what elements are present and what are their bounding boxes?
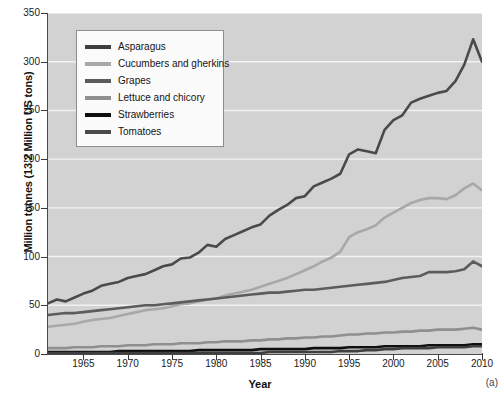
- x-tick-mark: [261, 354, 262, 360]
- chart-figure: Million tonnes (13.2 Million US tons) 05…: [0, 0, 504, 407]
- y-tick-mark: [41, 305, 48, 306]
- y-tick-mark: [41, 110, 48, 111]
- y-tick-mark: [41, 62, 48, 63]
- y-tick-label: 50: [6, 299, 40, 310]
- legend-item[interactable]: Tomatoes: [85, 123, 215, 140]
- panel-label: (a): [486, 377, 498, 388]
- legend-item-label: Asparagus: [118, 41, 166, 52]
- y-tick-mark: [41, 257, 48, 258]
- legend-color-swatch: [85, 45, 111, 49]
- y-tick-label: 300: [6, 56, 40, 67]
- legend-item[interactable]: Asparagus: [85, 38, 215, 55]
- legend-color-swatch: [85, 113, 111, 117]
- legend-item-label: Cucumbers and gherkins: [118, 58, 229, 69]
- legend-color-swatch: [85, 96, 111, 100]
- x-tick-mark: [393, 354, 394, 360]
- legend-item-label: Grapes: [118, 75, 151, 86]
- y-tick-label: 0: [6, 348, 40, 359]
- legend-color-swatch: [85, 130, 111, 134]
- legend-item-label: Tomatoes: [118, 126, 161, 137]
- y-tick-mark: [41, 354, 48, 355]
- x-tick-mark: [438, 354, 439, 360]
- x-tick-mark: [482, 354, 483, 360]
- x-tick-mark: [83, 354, 84, 360]
- x-tick-mark: [349, 354, 350, 360]
- x-tick-mark: [128, 354, 129, 360]
- legend-color-swatch: [85, 79, 111, 83]
- x-axis-title: Year: [200, 378, 320, 390]
- y-tick-mark: [41, 208, 48, 209]
- y-tick-label: 100: [6, 251, 40, 262]
- series-line: [48, 261, 482, 315]
- legend-item-label: Strawberries: [118, 109, 174, 120]
- y-tick-label: 250: [6, 104, 40, 115]
- legend-item[interactable]: Strawberries: [85, 106, 215, 123]
- chart-legend: AsparagusCucumbers and gherkinsGrapesLet…: [76, 30, 224, 147]
- y-tick-mark: [41, 159, 48, 160]
- legend-item[interactable]: Lettuce and chicory: [85, 89, 215, 106]
- legend-item[interactable]: Grapes: [85, 72, 215, 89]
- y-tick-label: 350: [6, 7, 40, 18]
- x-tick-mark: [305, 354, 306, 360]
- legend-item-label: Lettuce and chicory: [118, 92, 205, 103]
- y-tick-mark: [41, 13, 48, 14]
- legend-color-swatch: [85, 62, 111, 66]
- x-tick-mark: [172, 354, 173, 360]
- y-tick-label: 150: [6, 202, 40, 213]
- x-tick-mark: [216, 354, 217, 360]
- legend-item[interactable]: Cucumbers and gherkins: [85, 55, 215, 72]
- y-tick-label: 200: [6, 153, 40, 164]
